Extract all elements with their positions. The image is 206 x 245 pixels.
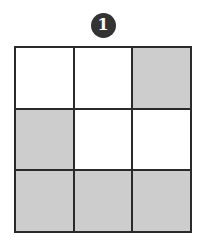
grid-cell-r2c1[interactable]: [75, 171, 132, 231]
grid-cell-r0c0[interactable]: [16, 48, 73, 108]
numbered-circle-badge-icon: 1: [91, 13, 116, 38]
grid-cell-r0c2[interactable]: [133, 48, 190, 108]
figure-panel: 1: [0, 0, 206, 245]
grid-cell-r1c2[interactable]: [133, 110, 190, 170]
grid-cell-r1c1[interactable]: [75, 110, 132, 170]
figure-label-row: 1: [0, 12, 206, 38]
grid-cell-r2c2[interactable]: [133, 171, 190, 231]
grid-cell-r1c0[interactable]: [16, 110, 73, 170]
grid-cell-r2c0[interactable]: [16, 171, 73, 231]
pattern-grid: [14, 46, 192, 233]
grid-cell-r0c1[interactable]: [75, 48, 132, 108]
figure-label-text: 1: [97, 17, 108, 33]
